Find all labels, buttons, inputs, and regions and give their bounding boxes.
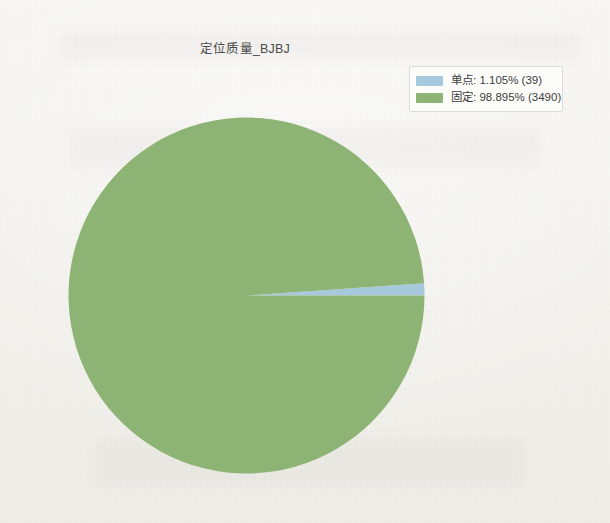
pie-plot-area xyxy=(68,117,425,474)
pie-chart-figure: 定位质量_BJBJ 单点: 1.105% (39) 固定: 98.895% (3… xyxy=(0,0,610,523)
pie-svg xyxy=(68,117,425,474)
pie-slice-guding[interactable] xyxy=(69,118,425,474)
legend-item-guding[interactable]: 固定: 98.895% (3490) xyxy=(416,89,555,106)
legend-swatch-dandian xyxy=(416,76,443,86)
legend-swatch-guding xyxy=(416,93,443,103)
chart-legend: 单点: 1.105% (39) 固定: 98.895% (3490) xyxy=(409,66,563,112)
chart-title: 定位质量_BJBJ xyxy=(0,38,550,57)
legend-item-dandian[interactable]: 单点: 1.105% (39) xyxy=(416,72,555,89)
legend-label-dandian: 单点: 1.105% (39) xyxy=(451,75,542,87)
legend-label-guding: 固定: 98.895% (3490) xyxy=(451,92,561,104)
